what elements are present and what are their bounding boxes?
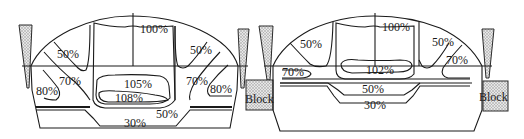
label-right-50: 50% <box>362 82 384 96</box>
right-wedge-left <box>259 26 273 80</box>
label-right-102: 102% <box>366 63 394 77</box>
label-left-50-ul: 50% <box>57 47 79 61</box>
label-right-100: 100% <box>382 20 410 34</box>
label-right-70-ml: 70% <box>282 65 304 79</box>
left-outer-profile <box>31 16 238 128</box>
left-wedge-right <box>238 29 249 88</box>
label-left-108: 108% <box>115 91 143 105</box>
label-right-50-ul: 50% <box>300 37 322 51</box>
label-right-30: 30% <box>364 98 386 112</box>
left-wedge-left <box>19 25 32 88</box>
label-left-70-mr: 70% <box>186 74 208 88</box>
right-cross-section: Block Block 100% 50% 50% 70% 70 <box>245 13 508 131</box>
label-left-105: 105% <box>124 77 152 91</box>
label-left-80-or: 80% <box>210 82 232 96</box>
label-right-70-mr: 70% <box>446 53 468 67</box>
label-left-80-ol: 80% <box>36 84 58 98</box>
label-left-30: 30% <box>124 116 146 130</box>
label-block-left: Block <box>245 92 274 106</box>
label-left-50-br: 50% <box>156 107 178 121</box>
left-cross-section: 100% 50% 50% 70% 70% 80% 80% 105% 108% 5… <box>19 13 249 130</box>
right-wedge-right <box>482 29 494 78</box>
label-block-right: Block <box>479 90 508 104</box>
label-left-100: 100% <box>140 22 168 36</box>
label-left-50-ur: 50% <box>190 43 212 57</box>
label-right-50-ur: 50% <box>432 35 454 49</box>
label-left-70-ml: 70% <box>59 74 81 88</box>
figure-canvas: 100% 50% 50% 70% 70% 80% 80% 105% 108% 5… <box>0 0 524 139</box>
right-contour-50 <box>280 83 420 95</box>
